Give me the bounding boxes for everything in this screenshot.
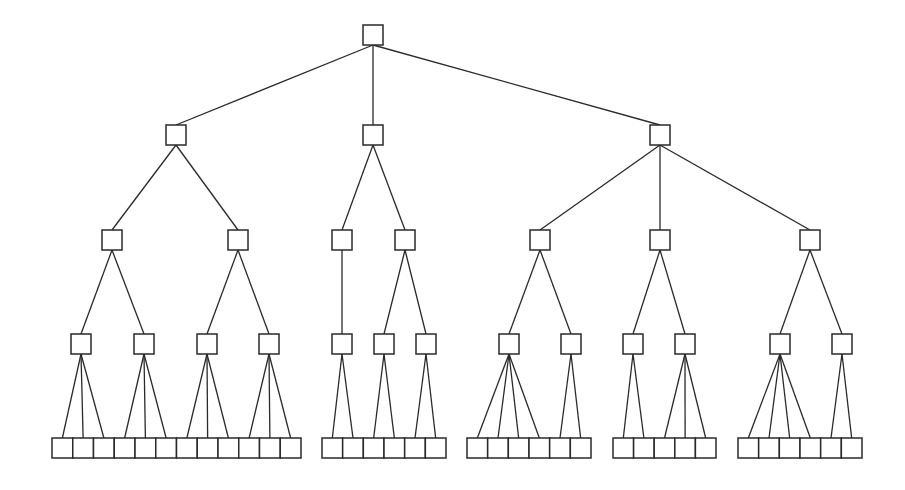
root-node [363, 25, 383, 45]
leaf-node [322, 438, 343, 458]
tree-edge [112, 145, 176, 230]
tree-edge [842, 354, 852, 438]
tree-edge [373, 145, 405, 230]
tree-edge [509, 250, 540, 334]
tree-edge [633, 250, 660, 334]
tree-edge [685, 354, 706, 438]
leaf-node [343, 438, 364, 458]
tree-node-level-2 [332, 230, 352, 250]
tree-edge [269, 354, 291, 438]
tree-edge [665, 354, 686, 438]
leaf-node [218, 438, 239, 458]
leaf-node [405, 438, 426, 458]
leaf-node [634, 438, 655, 458]
tree-nodes [52, 25, 862, 458]
tree-svg [0, 0, 905, 490]
tree-node-level-2 [650, 230, 670, 250]
tree-edge [415, 354, 426, 438]
leaf-node [613, 438, 634, 458]
leaf-node [570, 438, 591, 458]
tree-node-level-3 [197, 334, 217, 354]
tree-node-level-3 [134, 334, 154, 354]
leaf-node [675, 438, 696, 458]
tree-edge [187, 354, 207, 438]
tree-edge [831, 354, 842, 438]
tree-edge [810, 250, 842, 334]
tree-node-level-1 [650, 125, 670, 145]
leaf-node [550, 438, 571, 458]
tree-edge [633, 354, 644, 438]
leaf-node [280, 438, 301, 458]
tree-edge [477, 354, 509, 438]
tree-edge [384, 250, 405, 334]
tree-node-level-3 [332, 334, 352, 354]
tree-node-level-2 [228, 230, 248, 250]
tree-edge [560, 354, 571, 438]
tree-node-level-3 [561, 334, 581, 354]
tree-edge [660, 250, 685, 334]
tree-edge [176, 145, 238, 230]
leaf-node [73, 438, 94, 458]
tree-edge [540, 145, 660, 230]
tree-edge [405, 250, 426, 334]
leaf-node [156, 438, 177, 458]
leaf-node [821, 438, 842, 458]
tree-edges [62, 45, 851, 438]
leaf-node [779, 438, 800, 458]
tree-edge [769, 354, 780, 438]
tree-edge [748, 354, 780, 438]
tree-edge [384, 354, 394, 438]
tree-edge [144, 354, 166, 438]
tree-edge [373, 45, 660, 125]
tree-edge [269, 354, 270, 438]
tree-edge [342, 145, 373, 230]
tree-edge [207, 354, 208, 438]
tree-edge [374, 354, 384, 438]
tree-edge [571, 354, 581, 438]
leaf-node [508, 438, 529, 458]
tree-edge [660, 145, 810, 230]
tree-node-level-2 [530, 230, 550, 250]
tree-edge [249, 354, 269, 438]
tree-node-level-3 [832, 334, 852, 354]
leaf-node [738, 438, 759, 458]
tree-edge [426, 354, 436, 438]
leaf-node [800, 438, 821, 458]
leaf-node [52, 438, 73, 458]
leaf-node [260, 438, 281, 458]
tree-diagram [0, 0, 905, 490]
tree-node-level-3 [374, 334, 394, 354]
tree-node-level-1 [166, 125, 186, 145]
tree-edge [780, 250, 810, 334]
tree-edge [342, 354, 353, 438]
tree-edge [623, 354, 633, 438]
leaf-node [841, 438, 862, 458]
tree-edge [62, 354, 81, 438]
tree-node-level-1 [363, 125, 383, 145]
tree-edge [81, 250, 112, 334]
tree-edge [207, 250, 238, 334]
tree-edge [176, 45, 373, 125]
leaf-node [114, 438, 135, 458]
tree-edge [81, 354, 104, 438]
leaf-node [488, 438, 509, 458]
leaf-node [94, 438, 115, 458]
tree-node-level-3 [770, 334, 790, 354]
tree-edge [112, 250, 144, 334]
tree-edge [125, 354, 144, 438]
leaf-node [197, 438, 218, 458]
tree-node-level-3 [623, 334, 643, 354]
leaf-node [239, 438, 260, 458]
tree-node-level-3 [71, 334, 91, 354]
tree-node-level-3 [259, 334, 279, 354]
leaf-node [425, 438, 446, 458]
tree-node-level-2 [800, 230, 820, 250]
tree-edge [498, 354, 509, 438]
tree-node-level-3 [416, 334, 436, 354]
leaf-node [363, 438, 384, 458]
tree-node-level-2 [102, 230, 122, 250]
tree-edge [81, 354, 83, 438]
tree-edge [238, 250, 269, 334]
leaf-node [135, 438, 156, 458]
leaf-node [759, 438, 780, 458]
